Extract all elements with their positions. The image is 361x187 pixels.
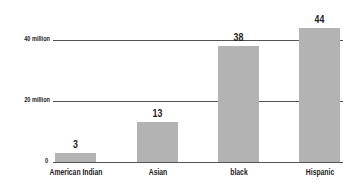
category-label: Asian — [122, 167, 194, 177]
bar-american-indian — [55, 153, 96, 162]
bar-black — [218, 46, 259, 162]
value-label: 38 — [222, 31, 255, 43]
bar-hispanic — [299, 28, 340, 162]
ytick-20: 20 million — [2, 96, 50, 103]
baseline — [53, 162, 343, 163]
value-label: 44 — [303, 13, 336, 25]
bar-asian — [137, 122, 178, 162]
category-label: American Indian — [40, 167, 112, 177]
category-label: black — [203, 167, 275, 177]
value-label: 13 — [141, 107, 174, 119]
ytick-40: 40 million — [2, 35, 50, 42]
category-label: Hispanic — [284, 167, 356, 177]
value-label: 3 — [59, 138, 92, 150]
ytick-0: 0 — [0, 157, 48, 164]
